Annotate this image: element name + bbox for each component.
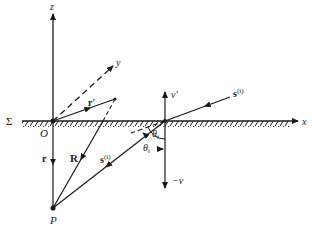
z-axis-label: z	[49, 1, 54, 12]
incident-s-label: s(i)	[233, 87, 244, 99]
R-vector	[53, 121, 103, 208]
y-axis-label: y	[115, 57, 121, 68]
theta-t-tick-left	[143, 133, 147, 136]
r-label: r	[42, 153, 47, 164]
R-label: R	[70, 152, 79, 164]
r-prime-vector	[53, 99, 115, 121]
y-axis	[53, 66, 113, 121]
transmitted-s-label: s(i)	[100, 153, 111, 165]
scattering-geometry-diagram: z y x Σ O P r′ r R s(i) s(i) v′ −v θi θt	[0, 0, 312, 233]
x-axis-label: x	[301, 116, 307, 127]
point-p	[51, 206, 56, 211]
v-prime-label: v′	[171, 89, 178, 100]
surface-label: Σ	[6, 115, 12, 127]
origin-label: O	[40, 127, 48, 139]
transmitted-ray	[53, 121, 165, 208]
theta-t-label: θt	[143, 142, 151, 155]
r-prime-tip	[114, 98, 117, 101]
point-p-label: P	[49, 214, 57, 226]
origin-point	[51, 119, 56, 124]
theta-i-label: θi	[152, 128, 159, 141]
r-prime-label: r′	[88, 97, 95, 108]
minus-v-label: −v	[172, 175, 184, 186]
incident-ray	[165, 97, 230, 121]
incidence-point	[163, 119, 167, 123]
